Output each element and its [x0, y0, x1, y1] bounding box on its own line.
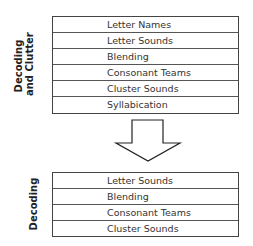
bottom-label: Decoding: [28, 174, 39, 234]
bottom-group-label: Decoding: [28, 174, 40, 234]
table-row: Cluster Sounds: [53, 221, 238, 237]
table-row: Blending: [53, 189, 238, 205]
table-row: Consonant Teams: [53, 205, 238, 221]
bottom-skills-table: Letter Sounds Blending Consonant Teams C…: [52, 172, 239, 237]
table-row: Letter Sounds: [53, 173, 238, 189]
